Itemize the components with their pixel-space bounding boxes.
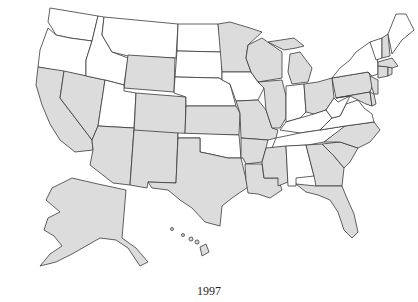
state-ny (332, 42, 378, 78)
state-mt (102, 17, 178, 58)
state-fl (296, 184, 358, 238)
state-me (388, 14, 414, 54)
state-co (134, 93, 186, 136)
state-ks (185, 106, 240, 135)
state-hi (171, 228, 210, 257)
state-ri (388, 67, 392, 76)
us-states-map (0, 0, 418, 302)
map-caption-year: 1997 (0, 284, 418, 299)
state-sd (175, 51, 222, 80)
state-ak (40, 178, 148, 266)
state-nd (177, 24, 222, 52)
state-wy (124, 55, 175, 92)
state-az (90, 126, 134, 185)
state-nm (130, 130, 178, 188)
state-nj (370, 76, 378, 94)
state-ct (378, 66, 388, 78)
state-in (286, 84, 306, 122)
